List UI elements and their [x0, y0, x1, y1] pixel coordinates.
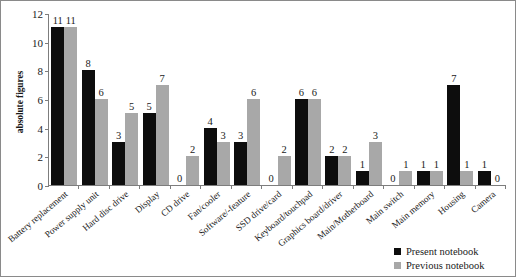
bar[interactable]: 6	[247, 99, 260, 185]
bar-value-label: 5	[129, 101, 134, 112]
bar[interactable]: 11	[64, 27, 77, 185]
bar-value-label: 1	[421, 159, 426, 170]
bar[interactable]: 2	[338, 156, 351, 185]
bar[interactable]: 1	[399, 171, 412, 185]
bar-value-label: 5	[147, 101, 152, 112]
bar-slot: 3	[112, 14, 125, 185]
bar[interactable]: 2	[186, 156, 199, 185]
bar-group-container: 11118635570243360266221301117110	[49, 14, 506, 185]
bar-value-label: 3	[116, 130, 121, 141]
bar-value-label: 8	[86, 58, 91, 69]
bar-slot: 5	[143, 14, 156, 185]
bar-group: 11	[415, 14, 445, 185]
bar-group: 35	[110, 14, 140, 185]
bar[interactable]: 5	[143, 113, 156, 185]
bar-slot: 3	[217, 14, 230, 185]
bar-slot: 3	[369, 14, 382, 185]
bar-group: 36	[232, 14, 262, 185]
bar[interactable]: 7	[447, 85, 460, 185]
bar-slot: 8	[82, 14, 95, 185]
bar[interactable]: 1	[478, 171, 491, 185]
bar-slot: 0	[173, 14, 186, 185]
bar-value-label: 1	[434, 159, 439, 170]
bar-value-label: 2	[329, 144, 334, 155]
bar-value-label: 2	[342, 144, 347, 155]
bar-value-label: 3	[373, 130, 378, 141]
bar[interactable]: 7	[156, 85, 169, 185]
bar-value-label: 3	[238, 130, 243, 141]
legend-label: Previous notebook	[406, 260, 484, 271]
bar[interactable]: 1	[356, 171, 369, 185]
bar-slot: 1	[430, 14, 443, 185]
bar-group: 01	[384, 14, 414, 185]
bar[interactable]: 4	[204, 128, 217, 185]
bar-value-label: 4	[207, 116, 212, 127]
bar-slot: 0	[491, 14, 504, 185]
bar-slot: 2	[338, 14, 351, 185]
bar-value-label: 2	[281, 144, 286, 155]
bar[interactable]: 1	[460, 171, 473, 185]
bar[interactable]: 6	[295, 99, 308, 185]
x-axis-category: CD drive	[170, 187, 201, 257]
bar-value-label: 6	[99, 87, 104, 98]
bar-slot: 11	[64, 14, 77, 185]
bar-value-label: 11	[53, 15, 63, 26]
bar-slot: 0	[265, 14, 278, 185]
bar[interactable]: 11	[51, 27, 64, 185]
bar-value-label: 1	[360, 159, 365, 170]
bar-slot: 2	[186, 14, 199, 185]
bar-value-label: 0	[390, 173, 395, 184]
bar-slot: 1	[460, 14, 473, 185]
bar[interactable]: 6	[95, 99, 108, 185]
bar-value-label: 1	[403, 159, 408, 170]
bar-value-label: 11	[66, 15, 76, 26]
bar-slot: 1	[399, 14, 412, 185]
bar-value-label: 0	[177, 173, 182, 184]
legend-item[interactable]: Previous notebook	[394, 258, 484, 272]
bar[interactable]: 1	[417, 171, 430, 185]
bar[interactable]: 3	[369, 142, 382, 185]
chart-legend: Present notebookPrevious notebook	[394, 244, 484, 272]
bar-group: 43	[201, 14, 231, 185]
bar-slot: 5	[125, 14, 138, 185]
bar[interactable]: 2	[278, 156, 291, 185]
bar[interactable]: 8	[82, 70, 95, 185]
bar-slot: 6	[247, 14, 260, 185]
bar-slot: 7	[156, 14, 169, 185]
bar-value-label: 1	[464, 159, 469, 170]
legend-swatch-icon	[394, 248, 401, 255]
bar-slot: 2	[325, 14, 338, 185]
bar-value-label: 6	[312, 87, 317, 98]
bar-group: 10	[476, 14, 506, 185]
bar-slot: 6	[295, 14, 308, 185]
legend-label: Present notebook	[406, 246, 479, 257]
bar-value-label: 0	[495, 173, 500, 184]
bar-value-label: 7	[160, 73, 165, 84]
bar-group: 71	[445, 14, 475, 185]
bar[interactable]: 2	[325, 156, 338, 185]
bar-group: 02	[171, 14, 201, 185]
bar-value-label: 7	[451, 73, 456, 84]
bar-value-label: 2	[190, 144, 195, 155]
bar[interactable]: 1	[430, 171, 443, 185]
bar-group: 86	[79, 14, 109, 185]
plot-area: 024681012 111186355702433602662213011171…	[48, 14, 506, 186]
bar-group: 66	[293, 14, 323, 185]
bar-group: 57	[140, 14, 170, 185]
legend-item[interactable]: Present notebook	[394, 244, 484, 258]
x-axis-category: Hard disc drive	[109, 187, 140, 257]
bar-group: 1111	[49, 14, 79, 185]
bar-value-label: 3	[220, 130, 225, 141]
bar[interactable]: 3	[112, 142, 125, 185]
y-axis-title: absolute figures	[15, 52, 29, 152]
bar[interactable]: 6	[308, 99, 321, 185]
bar-value-label: 1	[482, 159, 487, 170]
bar[interactable]: 3	[217, 142, 230, 185]
bar[interactable]: 5	[125, 113, 138, 185]
bar-slot: 7	[447, 14, 460, 185]
bar-value-label: 0	[268, 173, 273, 184]
x-axis-category: Display	[140, 187, 171, 257]
bar-slot: 6	[308, 14, 321, 185]
bar[interactable]: 3	[234, 142, 247, 185]
bar-slot: 0	[386, 14, 399, 185]
